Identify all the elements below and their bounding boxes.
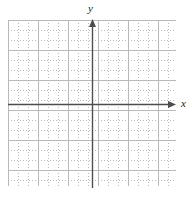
x-axis-label: x — [181, 98, 186, 109]
axes-layer — [0, 0, 192, 198]
coordinate-plane-figure: y x — [0, 0, 192, 198]
x-axis-arrowhead — [168, 101, 176, 108]
y-axis-arrowhead — [89, 19, 96, 27]
y-axis-label: y — [88, 3, 93, 14]
